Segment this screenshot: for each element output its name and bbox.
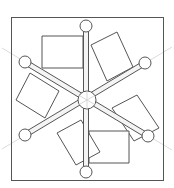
center-hub [78, 91, 96, 109]
end-circle-lower-left [19, 129, 31, 141]
end-circle-lower-right [142, 130, 154, 142]
end-circle-bottom [80, 166, 92, 178]
rectangle-top-left [42, 36, 83, 68]
symmetry-diagram [0, 0, 174, 188]
end-circle-upper-right [139, 57, 151, 69]
end-circle-top [80, 20, 92, 32]
end-circle-upper-left [19, 56, 31, 68]
